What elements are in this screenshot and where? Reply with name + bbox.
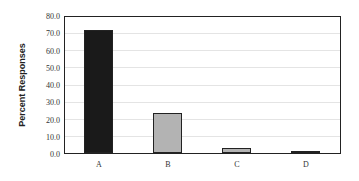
y-tick-label: 20.0 — [30, 115, 60, 124]
x-category-label: C — [234, 160, 239, 169]
y-tick-label: 30.0 — [30, 98, 60, 107]
y-tick-label: 10.0 — [30, 132, 60, 141]
y-tick-label: 70.0 — [30, 29, 60, 38]
x-category-label: D — [303, 160, 309, 169]
y-tick-label: 40.0 — [30, 81, 60, 90]
bar-d — [291, 151, 320, 153]
y-tick-label: 60.0 — [30, 46, 60, 55]
bar-c — [222, 148, 251, 153]
y-tick-label: 50.0 — [30, 63, 60, 72]
y-tick-label: 80.0 — [30, 12, 60, 21]
y-axis-label: Percent Responses — [17, 43, 27, 127]
plot-area — [64, 16, 341, 154]
x-category-label: A — [96, 160, 102, 169]
x-category-label: B — [165, 160, 170, 169]
y-tick-label: 0.0 — [30, 150, 60, 159]
bar-a — [84, 30, 113, 153]
bar-b — [153, 113, 182, 154]
